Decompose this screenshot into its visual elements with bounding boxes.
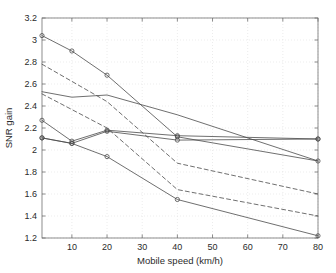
x-tick-label: 50 <box>208 242 218 252</box>
y-tick-label: 2 <box>32 145 37 155</box>
y-axis-title: SNR gain <box>3 108 14 149</box>
y-tick-label: 1.4 <box>24 211 37 221</box>
x-tick-label: 70 <box>278 242 288 252</box>
figure-container: 10203040506070801.21.41.61.822.22.42.62.… <box>0 0 336 273</box>
x-tick-label: 30 <box>137 242 147 252</box>
x-tick-label: 40 <box>172 242 182 252</box>
x-tick-label: 20 <box>102 242 112 252</box>
y-tick-label: 3 <box>32 35 37 45</box>
y-tick-label: 2.2 <box>24 123 37 133</box>
y-tick-label: 3.2 <box>24 13 37 23</box>
chart-svg: 10203040506070801.21.41.61.822.22.42.62.… <box>0 0 336 273</box>
x-tick-label: 80 <box>313 242 323 252</box>
y-tick-label: 1.2 <box>24 233 37 243</box>
y-tick-label: 1.8 <box>24 167 37 177</box>
x-axis-title: Mobile speed (km/h) <box>137 255 223 266</box>
figure-background <box>0 0 336 273</box>
y-tick-label: 1.6 <box>24 189 37 199</box>
y-tick-label: 2.8 <box>24 57 37 67</box>
y-tick-label: 2.6 <box>24 79 37 89</box>
y-tick-label: 2.4 <box>24 101 37 111</box>
x-tick-label: 10 <box>67 242 77 252</box>
x-tick-label: 60 <box>243 242 253 252</box>
